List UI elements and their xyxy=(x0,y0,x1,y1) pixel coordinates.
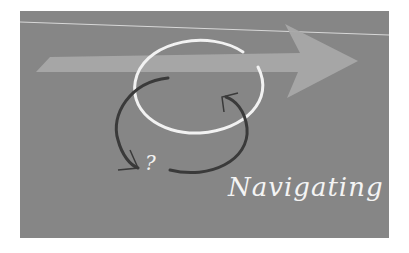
big-arrow-icon xyxy=(36,24,358,98)
dark-arrow-right xyxy=(170,97,247,173)
thin-diagonal-line xyxy=(20,22,389,35)
dark-arrow-left xyxy=(116,78,168,168)
question-mark: ? xyxy=(145,151,156,175)
illustration-graphics: ? xyxy=(0,0,409,253)
caption-navigating: Navigating xyxy=(228,172,384,202)
